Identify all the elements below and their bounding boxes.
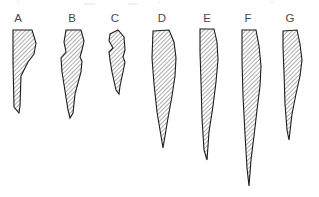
specimen-label-f: F bbox=[244, 12, 251, 24]
specimen-label-c: C bbox=[111, 12, 119, 24]
specimen-label-a: A bbox=[14, 12, 22, 24]
specimen-label-b: B bbox=[68, 12, 76, 24]
specimen-label-d: D bbox=[158, 12, 166, 24]
specimen-label-e: E bbox=[203, 12, 211, 24]
figure-plate: Comparative outlines of seven hatched bl… bbox=[0, 0, 319, 197]
specimen-outline-diagram: Comparative outlines of seven hatched bl… bbox=[0, 0, 319, 197]
specimen-label-g: G bbox=[286, 12, 295, 24]
